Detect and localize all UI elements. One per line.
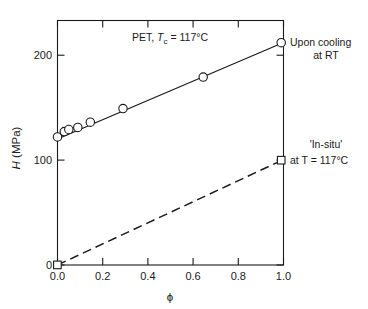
x-tick-label-5: 1.0 bbox=[276, 270, 291, 282]
x-tick-label-2: 0.4 bbox=[140, 270, 155, 282]
x-tick-label-4: 0.8 bbox=[231, 270, 246, 282]
y-axis-title: H (MPa) bbox=[10, 126, 22, 169]
y-tick-label-100: 100 bbox=[34, 154, 52, 166]
y-axis-ticks-left bbox=[58, 55, 65, 265]
data-point bbox=[277, 39, 285, 47]
series-in-situ-line bbox=[58, 161, 282, 266]
x-tick-label-0: 0.0 bbox=[50, 270, 65, 282]
series-upon-cooling-markers bbox=[53, 39, 285, 142]
plot-title-value: = 117°C bbox=[170, 31, 208, 43]
x-tick-label-1: 0.2 bbox=[95, 270, 110, 282]
data-point bbox=[65, 125, 73, 133]
y-axis-units: (MPa) bbox=[10, 126, 22, 157]
x-tick-label-3: 0.6 bbox=[185, 270, 200, 282]
upon-cooling-annotation-line2: at RT bbox=[313, 49, 339, 61]
plot-title: PET, Tc = 117°C bbox=[132, 31, 208, 46]
y-tick-label-0: 0 bbox=[46, 259, 52, 271]
x-axis-ticks-bottom bbox=[58, 258, 284, 265]
data-point bbox=[74, 123, 82, 131]
plot-title-material: PET, bbox=[132, 31, 154, 43]
data-point bbox=[277, 156, 285, 164]
data-point bbox=[119, 104, 127, 112]
chart-figure: 0.0 0.2 0.4 0.6 0.8 1.0 0 100 200 H (MPa… bbox=[0, 0, 368, 309]
data-point bbox=[199, 73, 207, 81]
chart-canvas: 0.0 0.2 0.4 0.6 0.8 1.0 0 100 200 H (MPa… bbox=[0, 0, 368, 309]
upon-cooling-annotation: Upon cooling bbox=[290, 36, 351, 48]
in-situ-annotation: 'In-situ' bbox=[310, 138, 343, 150]
x-axis-title: ϕ bbox=[167, 291, 173, 303]
y-tick-label-200: 200 bbox=[34, 49, 52, 61]
data-point bbox=[54, 261, 62, 269]
series-in-situ-markers bbox=[54, 156, 285, 268]
in-situ-annotation-line2: at T = 117°C bbox=[290, 154, 349, 166]
x-axis-ticks-top bbox=[58, 21, 284, 28]
svg-text:H (MPa): H (MPa) bbox=[10, 126, 22, 169]
data-point bbox=[86, 118, 94, 126]
